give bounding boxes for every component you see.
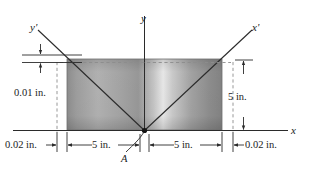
left-half-width-dimension-label: 5 in. [92, 140, 111, 151]
right-offset-dimension-label: 0.02 in. [245, 140, 277, 151]
y-axis-label: y [141, 13, 146, 24]
point-a-marker [142, 128, 147, 133]
right-half-width-dimension-label: 5 in. [174, 140, 193, 151]
x-axis-label: x [291, 125, 296, 136]
left-offset-dimension-label: 0.02 in. [5, 140, 37, 151]
bottom-dimension-ticks [57, 132, 233, 152]
point-a-leader-line [126, 132, 144, 152]
y-prime-axis-label: y' [30, 22, 37, 33]
point-a-label: A [121, 154, 127, 165]
engineering-diagram: y x y' x' A 0.01 in. 5 in. 0.02 in. 5 in… [0, 0, 311, 169]
tolerance-dimension-label: 0.01 in. [14, 88, 46, 99]
x-prime-axis-label: x' [252, 22, 259, 33]
height-dimension-label: 5 in. [228, 92, 247, 103]
